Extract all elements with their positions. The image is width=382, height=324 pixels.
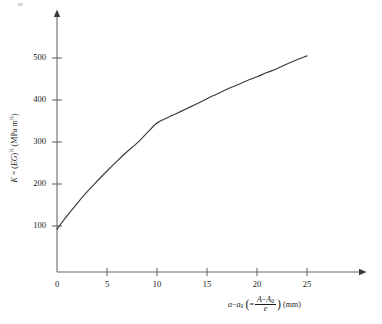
y-axis-exponent: ½: [9, 148, 15, 152]
x-tick-label-10: 10: [147, 280, 167, 289]
plot-area: [0, 0, 382, 324]
y-axis-units-close-paren: ): [10, 113, 19, 116]
y-axis-close-paren: ): [10, 153, 19, 156]
fraction-denominator: e: [255, 304, 276, 313]
x-axis-a0-subscript: 0: [241, 303, 244, 309]
x-axis-inner-equals: =: [249, 300, 254, 309]
y-axis-units-exponent: ½: [9, 116, 15, 120]
chart-figure: 500 400 300 200 100 0 5 10 15 20 25 K = …: [0, 0, 382, 324]
y-tick-label-200: 200: [20, 179, 46, 188]
numerator-A0-subscript: 0: [271, 298, 274, 304]
y-axis-eg: EG: [10, 155, 19, 166]
x-axis-units: (mm): [283, 300, 301, 309]
x-axis-fraction: A−A0 e: [255, 296, 276, 314]
y-axis-units: (MPa m: [10, 120, 19, 148]
fraction-numerator: A−A0: [255, 296, 276, 304]
y-tick-label-400: 400: [20, 95, 46, 104]
x-tick-label-0: 0: [47, 280, 67, 289]
x-tick-label-25: 25: [297, 280, 317, 289]
close-paren-icon: ): [277, 300, 281, 310]
y-tick-label-100: 100: [20, 221, 46, 230]
x-tick-label-20: 20: [247, 280, 267, 289]
x-axis-title: a−a0 (= A−A0 e ) (mm): [228, 296, 301, 314]
y-tick-label-500: 500: [20, 53, 46, 62]
y-tick-label-300: 300: [20, 137, 46, 146]
y-axis-equals: = (: [10, 166, 19, 177]
data-series-curve: [57, 56, 307, 229]
y-axis-title: K = (EG)½ (MPa m½): [9, 113, 19, 182]
y-axis-symbol: K: [10, 177, 19, 182]
x-tick-label-15: 15: [197, 280, 217, 289]
x-tick-label-5: 5: [97, 280, 117, 289]
